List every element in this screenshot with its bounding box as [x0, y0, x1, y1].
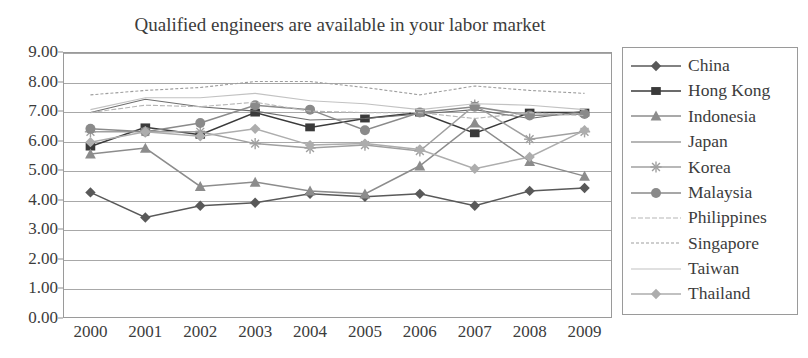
series-layer: [63, 52, 612, 318]
data-point: [651, 60, 661, 70]
legend-label: Korea: [688, 159, 731, 177]
data-point: [140, 212, 150, 222]
data-point: [140, 143, 151, 153]
data-point: [651, 87, 661, 95]
data-point: [579, 125, 589, 135]
legend-item-indonesia[interactable]: Indonesia: [629, 104, 797, 129]
legend-item-philippines[interactable]: Philippines: [629, 205, 797, 230]
legend-label: Japan: [688, 133, 728, 151]
y-axis-tick-label: 6.00: [28, 131, 58, 151]
legend-label: Indonesia: [688, 108, 756, 126]
x-axis-tick-label: 2002: [183, 322, 217, 342]
legend-marker-icon: [629, 208, 683, 228]
legend-marker-icon: [629, 106, 683, 126]
data-point: [305, 105, 315, 115]
legend-marker-icon: [629, 81, 683, 101]
data-point: [579, 183, 589, 193]
legend-item-malaysia[interactable]: Malaysia: [629, 180, 797, 205]
data-point: [470, 200, 480, 210]
y-axis: 9.008.007.006.005.004.003.002.001.000.00: [0, 52, 58, 318]
data-point: [415, 144, 425, 154]
legend-marker-icon: [629, 233, 683, 253]
data-point: [250, 198, 260, 208]
series-korea: [85, 100, 590, 157]
legend-label: Philippines: [688, 209, 767, 227]
legend-marker-icon: [629, 284, 683, 304]
data-point: [250, 138, 261, 149]
x-axis-tick-label: 2008: [513, 322, 547, 342]
x-axis-tick-label: 2006: [403, 322, 437, 342]
legend-marker-icon: [629, 157, 683, 177]
data-point: [651, 188, 661, 198]
data-point: [470, 129, 480, 137]
data-point: [85, 187, 95, 197]
x-axis: 2000200120022003200420052006200720082009: [63, 322, 612, 352]
x-axis-tick-label: 2001: [128, 322, 162, 342]
data-point: [85, 124, 95, 134]
data-point: [250, 124, 260, 134]
x-axis-tick-label: 2007: [458, 322, 492, 342]
series-china: [85, 183, 590, 223]
legend-item-hong-kong[interactable]: Hong Kong: [629, 78, 797, 103]
legend-item-korea[interactable]: Korea: [629, 155, 797, 180]
data-point: [360, 125, 370, 135]
y-axis-tick-label: 3.00: [28, 219, 58, 239]
x-axis-tick-label: 2005: [348, 322, 382, 342]
data-point: [524, 152, 534, 162]
legend: ChinaHong KongIndonesiaJapanKoreaMalaysi…: [622, 47, 798, 315]
y-axis-tick-label: 1.00: [28, 278, 58, 298]
legend-item-japan[interactable]: Japan: [629, 129, 797, 154]
data-point: [360, 138, 370, 148]
data-point: [470, 164, 480, 174]
x-axis-tick-label: 2009: [568, 322, 602, 342]
data-point: [305, 123, 315, 131]
legend-item-thailand[interactable]: Thailand: [629, 282, 797, 307]
data-point: [195, 118, 205, 128]
legend-marker-icon: [629, 183, 683, 203]
legend-label: China: [688, 57, 730, 75]
y-axis-tick-label: 4.00: [28, 190, 58, 210]
x-axis-tick-label: 2003: [238, 322, 272, 342]
legend-label: Hong Kong: [688, 82, 770, 100]
data-point: [195, 200, 205, 210]
x-axis-tick-label: 2000: [73, 322, 107, 342]
y-axis-tick-label: 7.00: [28, 101, 58, 121]
legend-marker-icon: [629, 56, 683, 76]
y-axis-tick-label: 0.00: [28, 308, 58, 328]
y-axis-tick-label: 9.00: [28, 42, 58, 62]
legend-label: Singapore: [688, 235, 759, 253]
data-point: [524, 134, 535, 145]
series-singapore: [90, 82, 584, 95]
data-point: [524, 186, 534, 196]
legend-item-singapore[interactable]: Singapore: [629, 231, 797, 256]
chart-container: Qualified engineers are available in you…: [0, 0, 808, 358]
legend-marker-icon: [629, 132, 683, 152]
legend-label: Taiwan: [688, 260, 739, 278]
legend-item-taiwan[interactable]: Taiwan: [629, 256, 797, 281]
legend-label: Malaysia: [688, 184, 752, 202]
data-point: [650, 162, 661, 173]
legend-item-china[interactable]: China: [629, 53, 797, 78]
y-axis-tick-label: 5.00: [28, 160, 58, 180]
series-line: [90, 113, 584, 147]
legend-label: Thailand: [688, 285, 750, 303]
data-point: [415, 189, 425, 199]
y-axis-tick-label: 2.00: [28, 249, 58, 269]
y-axis-tick-label: 8.00: [28, 72, 58, 92]
series-line: [90, 82, 584, 95]
page-title: Qualified engineers are available in you…: [60, 14, 620, 36]
data-point: [651, 289, 661, 299]
data-point: [580, 109, 590, 119]
x-axis-tick-label: 2004: [293, 322, 327, 342]
legend-marker-icon: [629, 259, 683, 279]
